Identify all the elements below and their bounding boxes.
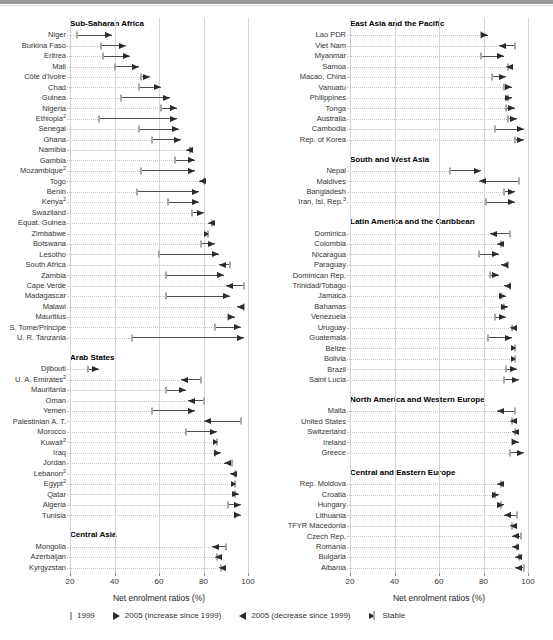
country-label: Dominica [250,230,350,238]
leader-dots [347,328,509,329]
country-label: Egypt2 [0,480,70,488]
marker-2005-arrow-right [505,84,512,90]
country-label: Lithuania [250,512,350,520]
country-label: Hungary [250,501,350,509]
chart-row: Bangladesh [250,187,530,197]
country-label: Kyrgyzstan [0,564,70,572]
row-track [70,145,248,155]
change-line [137,191,199,192]
country-label: Philippines [250,94,350,102]
row-track [350,489,528,499]
marker-1999-tick [167,199,169,206]
country-name: Colombia [314,239,346,248]
section-title: Latin America and the Caribbean [350,216,530,228]
section-title: East Asia and the Pacific [350,18,530,30]
marker-1999-tick [214,324,216,331]
legend-item: 2005 (increase since 1999) [113,611,222,620]
country-name: Australia [317,114,346,123]
axis-tick-label: 60 [149,577,169,586]
row-track [70,291,248,301]
row-track [70,437,248,447]
country-label: Vanuatu [250,84,350,92]
marker-1999-tick [523,564,525,571]
marker-2005-arrow-right [228,314,235,320]
row-track [70,448,248,458]
row-track [70,374,248,384]
chart-row: Burkina Faso [0,40,249,50]
country-name: Burkina Faso [22,41,66,50]
axis-tick-label: 80 [474,577,494,586]
chart-row: Yemen [0,406,249,416]
x-axis-title: Net enrolment ratios (%) [70,593,248,603]
country-name: Rep. of Korea [300,135,346,144]
row-track [350,228,528,238]
row-track [70,114,248,124]
marker-stable-arrow [204,231,209,237]
marker-1999-tick [516,512,518,519]
chart-row: Kuwait2 [0,437,249,447]
country-name: Hungary [318,500,346,509]
country-label: Cambodia [250,125,350,133]
marker-2005-arrow-left [512,544,519,550]
country-name: Rep. Moldova [300,479,346,488]
row-track [350,187,528,197]
country-name: Myanmar [315,51,346,60]
country-name: Equat. Guinea [18,218,66,227]
country-name: Cambodia [312,124,346,133]
row-track [70,187,248,197]
row-track [70,61,248,71]
leader-dots [67,265,218,266]
country-label: Zambia [0,272,70,280]
row-track [350,531,528,541]
country-name: Oman [46,396,66,405]
chart-row: Paraguay [250,260,530,270]
marker-2005-arrow-right [499,314,506,320]
row-track [350,103,528,113]
marker-2005-arrow-right [517,450,524,456]
country-name: Belize [326,344,346,353]
chart-row: Tonga [250,103,530,113]
row-track [350,427,528,437]
country-name: Kenya [42,197,63,206]
chart-row: S. Tome/Principe [0,322,249,332]
country-name: Qatar [47,490,66,499]
leader-dots [67,338,131,339]
row-track [70,552,248,562]
leader-dots [347,348,514,349]
row-track [70,207,248,217]
chart-row: Equat. Guinea [0,218,249,228]
leader-dots [67,484,234,485]
chart-row: Australia [250,114,530,124]
marker-2005-arrow-right [499,293,506,299]
marker-2005-arrow-right [508,189,515,195]
country-label: Niger [0,31,70,39]
leader-dots [67,129,138,130]
row-track [70,301,248,311]
country-name: Mali [52,62,66,71]
marker-2005-arrow-left [506,64,513,70]
leader-dots [67,119,98,120]
country-name: Maldives [316,177,346,186]
y1999-legend-icon [70,612,72,620]
marker-1999-tick [487,334,489,341]
row-track [350,124,528,134]
leader-dots [347,432,511,433]
country-label: Lebanon2 [0,470,70,478]
section-title: South and West Asia [350,154,530,166]
leader-dots [347,526,509,527]
country-name: Ethiopia [36,114,63,123]
inc-legend-icon [113,612,120,620]
leader-dots [347,87,503,88]
marker-2005-arrow-right [188,168,195,174]
row-track [70,562,248,572]
leader-dots [347,557,514,558]
row-track [70,155,248,165]
marker-2005-arrow-right [234,324,241,330]
chart-row: U. R. Tanzania [0,333,249,343]
country-name: Kuwait [40,438,63,447]
marker-2005-arrow-right [217,272,224,278]
country-label: Ethiopia2 [0,115,70,123]
country-name: Côte d'Ivoire [24,72,66,81]
row-track [70,218,248,228]
row-track [70,479,248,489]
